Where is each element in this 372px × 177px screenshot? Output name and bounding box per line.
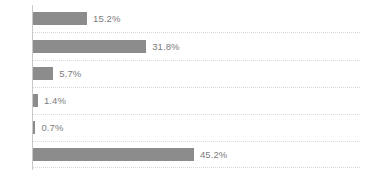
bar-series: 15.2%31.8%5.7%1.4%0.7%45.2%	[0, 0, 372, 177]
bar-value-label: 45.2%	[200, 148, 227, 161]
bar-row[interactable]: 15.2%	[33, 12, 121, 25]
bar[interactable]	[33, 12, 87, 25]
bar[interactable]	[33, 40, 146, 53]
bar-value-label: 15.2%	[93, 12, 120, 25]
bar-row[interactable]: 0.7%	[33, 121, 64, 134]
bar-value-label: 1.4%	[44, 94, 66, 107]
bar-chart: 15.2%31.8%5.7%1.4%0.7%45.2%	[0, 0, 372, 177]
bar[interactable]	[33, 67, 53, 80]
bar-row[interactable]: 31.8%	[33, 40, 180, 53]
bar-row[interactable]: 45.2%	[33, 148, 227, 161]
bar[interactable]	[33, 94, 38, 107]
bar[interactable]	[33, 148, 194, 161]
bar-row[interactable]: 5.7%	[33, 67, 81, 80]
bar-value-label: 0.7%	[41, 121, 63, 134]
bar-value-label: 5.7%	[59, 67, 81, 80]
bar[interactable]	[33, 121, 35, 134]
plot-area: 15.2%31.8%5.7%1.4%0.7%45.2%	[0, 0, 372, 177]
bar-value-label: 31.8%	[152, 40, 179, 53]
bar-row[interactable]: 1.4%	[33, 94, 66, 107]
